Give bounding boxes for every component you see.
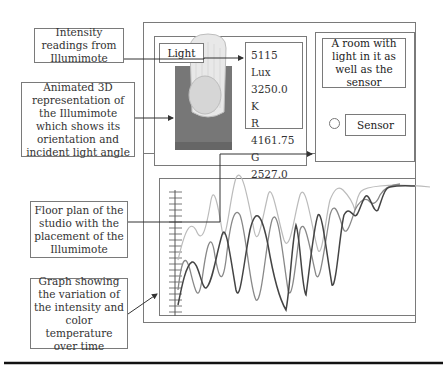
connector-lines — [0, 0, 447, 369]
